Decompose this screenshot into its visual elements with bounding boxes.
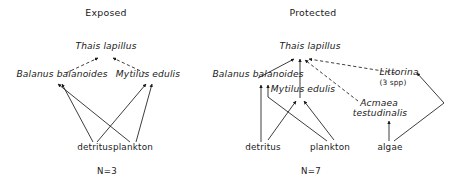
- node-protected-thais-lapillus: Thais lapillus: [279, 42, 340, 52]
- node-protected-plankton: plankton: [310, 143, 350, 153]
- node-exposed-thais-lapillus: Thais lapillus: [75, 42, 136, 52]
- sample-size-exposed: N=3: [97, 167, 117, 176]
- node-protected-acmaea-line2: testudinalis: [353, 109, 407, 119]
- node-protected-littorina-species-count: (3 spp): [380, 79, 407, 87]
- node-protected-mytilus-edulis: Mytilus edulis: [271, 85, 335, 95]
- edge-protected-plankton-mytilus: [304, 101, 334, 140]
- panel-title-protected: Protected: [289, 8, 336, 18]
- node-exposed-balanus-balanoides: Balanus balanoides: [16, 70, 107, 80]
- edge-protected-acmaea-thais: [305, 60, 358, 101]
- food-web-figure: Exposed Thais lapillus Balanus balanoide…: [0, 0, 456, 182]
- node-protected-balanus-balanoides: Balanus balanoides: [212, 70, 303, 80]
- node-protected-littorina: Littorina: [379, 68, 418, 78]
- node-protected-detritus: detritus: [245, 143, 281, 153]
- node-exposed-mytilus-edulis: Mytilus edulis: [116, 70, 180, 80]
- node-exposed-plankton: plankton: [113, 143, 153, 153]
- edge-exposed-detritus-balanus: [62, 84, 93, 142]
- edge-exposed-plankton-balanus: [58, 84, 130, 142]
- food-web-edges: [0, 0, 456, 182]
- node-exposed-detritus: detritus: [77, 143, 113, 153]
- node-protected-algae: algae: [377, 143, 402, 153]
- edge-protected-detritus-mytilus: [268, 101, 296, 140]
- panel-title-exposed: Exposed: [85, 8, 127, 18]
- sample-size-protected: N=7: [301, 167, 321, 176]
